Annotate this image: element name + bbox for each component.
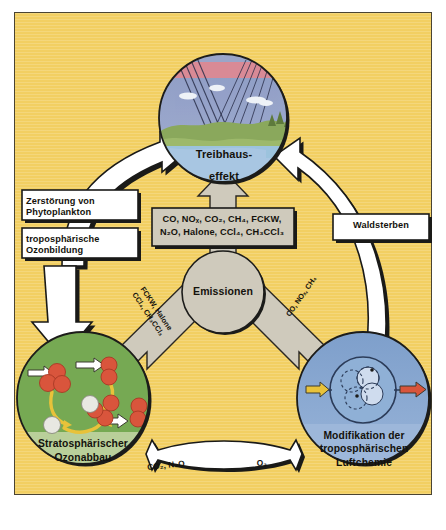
node-label-greenhouse-line1: Treibhaus- xyxy=(176,148,272,161)
label-tropospheric-ozone-formation: troposphärische Ozonbildung xyxy=(26,234,134,256)
emission-formula-text: CO, NOₓ, CO₂, CH₄, FCKW, N₂O, Halone, CC… xyxy=(158,213,286,240)
diagram-canvas: Zerstörung von Phytoplankton troposphäri… xyxy=(0,0,446,530)
node-label-troposphere: Modifikation der troposphärischen Luftch… xyxy=(296,429,432,469)
node-label-ozone-depletion: Stratosphärischer Ozonabbau xyxy=(10,437,156,465)
label-forest-dieback: Waldsterben xyxy=(337,220,425,231)
node-greenhouse-effect xyxy=(159,54,291,185)
label-phytoplankton-destruction: Zerstörung von Phytoplankton xyxy=(26,196,134,218)
node-label-emissions: Emissionen xyxy=(176,285,270,297)
node-label-greenhouse-line2: effekt xyxy=(176,170,272,183)
